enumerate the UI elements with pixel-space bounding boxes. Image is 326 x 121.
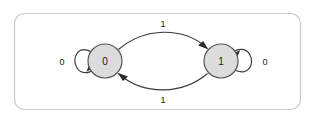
state-node-0[interactable]: 0 [88,44,122,78]
fsm-canvas: 0 1 0 0 1 1 [0,0,326,121]
state-1-label: 1 [218,56,224,67]
self-loop-state-0-label: 0 [59,57,64,67]
diagram-panel [15,14,301,110]
state-0-label: 0 [102,56,108,67]
state-node-1[interactable]: 1 [204,44,238,78]
transition-0-to-1-label: 1 [160,19,165,29]
state-machine-diagram: 0 1 0 0 1 1 [0,0,326,121]
self-loop-state-1-label: 0 [262,57,267,67]
transition-1-to-0-label: 1 [160,95,165,105]
